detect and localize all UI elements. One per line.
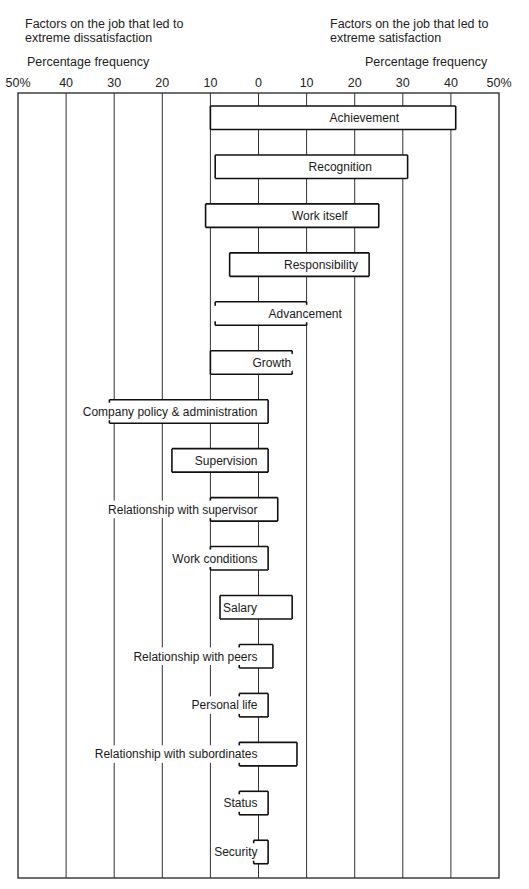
bar-label: Relationship with subordinates	[95, 747, 258, 761]
bar-label: Responsibility	[284, 258, 358, 272]
bar-label: Personal life	[191, 698, 257, 712]
bar-responsibility: Responsibility	[230, 253, 369, 277]
bar-salary: Salary	[220, 596, 292, 620]
bar-label: Relationship with supervisor	[108, 503, 257, 517]
bar-label: Advancement	[269, 307, 343, 321]
bar-label: Relationship with peers	[133, 650, 257, 664]
bar-personal-life: Personal life	[190, 693, 268, 717]
bar-security: Security	[213, 840, 268, 864]
bar-label: Achievement	[330, 111, 400, 125]
bar-label: Company policy & administration	[83, 405, 258, 419]
bar-label: Work conditions	[172, 552, 257, 566]
bar-advancement: Advancement	[215, 302, 344, 326]
bar-label: Salary	[223, 601, 257, 615]
bar-work-itself: Work itself	[206, 204, 379, 228]
bar-label: Status	[223, 796, 257, 810]
bar-label: Recognition	[309, 160, 372, 174]
bar-label: Work itself	[292, 209, 348, 223]
bar-relationship-with-supervisor: Relationship with supervisor	[107, 498, 278, 521]
bar-work-conditions: Work conditions	[171, 547, 268, 571]
bar-status: Status	[222, 791, 268, 815]
bar-recognition: Recognition	[215, 155, 407, 179]
bar-label: Supervision	[195, 454, 258, 468]
bar-relationship-with-subordinates: Relationship with subordinates	[93, 742, 297, 766]
bar-growth: Growth	[210, 351, 292, 375]
bar-label: Security	[214, 845, 257, 859]
bar-supervision: Supervision	[172, 449, 268, 473]
bar-relationship-with-peers: Relationship with peers	[132, 644, 273, 668]
diverging-bar-chart: AchievementRecognitionWork itselfRespons…	[0, 0, 529, 889]
bar-company-policy-administration: Company policy & administration	[81, 400, 268, 424]
bar-achievement: Achievement	[210, 106, 455, 130]
bar-label: Growth	[252, 356, 291, 370]
